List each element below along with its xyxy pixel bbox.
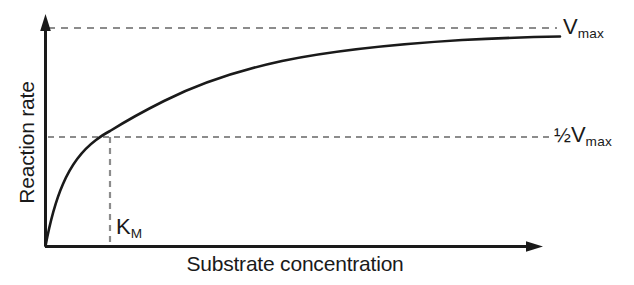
km-subscript: M xyxy=(131,226,143,241)
half-vmax-subscript: max xyxy=(586,134,612,149)
x-axis-arrowhead-icon xyxy=(526,241,543,252)
vmax-main-text: V xyxy=(563,14,578,39)
x-axis-title: Substrate concentration xyxy=(45,253,545,274)
half-vmax-main-text: V xyxy=(571,122,586,147)
y-axis-title-text: Reaction rate xyxy=(16,81,37,203)
km-annotation: KM xyxy=(116,216,142,238)
half-fraction-glyph: ½ xyxy=(554,124,571,146)
km-main-text: K xyxy=(116,214,131,239)
x-axis-title-text: Substrate concentration xyxy=(186,252,403,275)
michaelis-menten-figure: Reaction rate Substrate concentration Vm… xyxy=(0,0,634,285)
vmax-annotation: Vmax xyxy=(563,16,604,38)
y-axis-title: Reaction rate xyxy=(8,0,44,285)
plot-canvas xyxy=(0,0,634,285)
half-vmax-annotation: ½Vmax xyxy=(554,124,612,146)
vmax-subscript: max xyxy=(578,26,604,41)
